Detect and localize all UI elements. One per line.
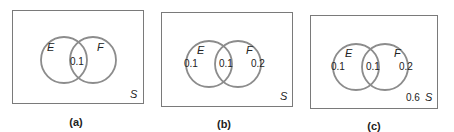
set-f-label: F (97, 41, 104, 53)
caption-b: (b) (204, 118, 244, 130)
set-f-label: F (246, 44, 253, 56)
f-only-value: 0.2 (399, 61, 413, 72)
set-e-label: E (345, 47, 352, 59)
caption-a: (a) (56, 116, 96, 128)
intersection-value: 0.1 (366, 61, 380, 72)
intersection-value: 0.1 (219, 58, 233, 69)
intersection-value: 0.1 (70, 56, 84, 67)
caption-c: (c) (354, 120, 394, 132)
set-f-label: F (394, 47, 401, 59)
f-only-value: 0.2 (251, 58, 265, 69)
e-only-value: 0.1 (331, 61, 345, 72)
sample-space-label: S (130, 88, 137, 100)
set-e-label: E (197, 44, 204, 56)
e-only-value: 0.1 (184, 58, 198, 69)
outside-value: 0.6 (406, 92, 420, 103)
sample-space-label: S (280, 90, 287, 102)
sample-space-label: S (425, 91, 432, 103)
set-e-label: E (47, 41, 54, 53)
